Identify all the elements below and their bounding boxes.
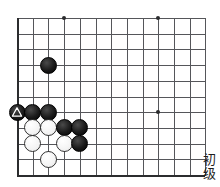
grid-line-vertical (111, 18, 112, 175)
level-char-1: 初 (200, 153, 218, 167)
grid-line-vertical (96, 18, 97, 175)
triangle-marker-icon (12, 107, 23, 117)
grid-line-vertical (143, 18, 144, 175)
grid-line-vertical (127, 18, 128, 175)
goban-grid[interactable] (17, 18, 205, 175)
star-point-icon (156, 110, 160, 114)
stone-white[interactable] (40, 119, 57, 136)
star-point-icon (62, 16, 66, 20)
go-problem-diagram: 初 级 (0, 0, 220, 187)
stone-black[interactable] (40, 104, 57, 121)
stone-white[interactable] (40, 151, 57, 168)
stone-black[interactable] (71, 119, 88, 136)
stone-black-marked-triangle[interactable] (9, 104, 26, 121)
grid-line-vertical (158, 18, 159, 175)
grid-line-vertical (190, 18, 191, 175)
stone-black[interactable] (24, 104, 41, 121)
grid-line-vertical (17, 18, 19, 175)
stone-black[interactable] (71, 135, 88, 152)
stone-white[interactable] (24, 119, 41, 136)
stone-black[interactable] (40, 57, 57, 74)
difficulty-level-label: 初 级 (200, 153, 218, 181)
grid-line-vertical (174, 18, 175, 175)
stone-black[interactable] (56, 119, 73, 136)
grid-line-horizontal (17, 175, 205, 177)
go-board-area[interactable] (0, 0, 200, 187)
level-char-2: 级 (200, 167, 218, 181)
stone-white[interactable] (56, 135, 73, 152)
star-point-icon (156, 16, 160, 20)
stone-white[interactable] (24, 135, 41, 152)
